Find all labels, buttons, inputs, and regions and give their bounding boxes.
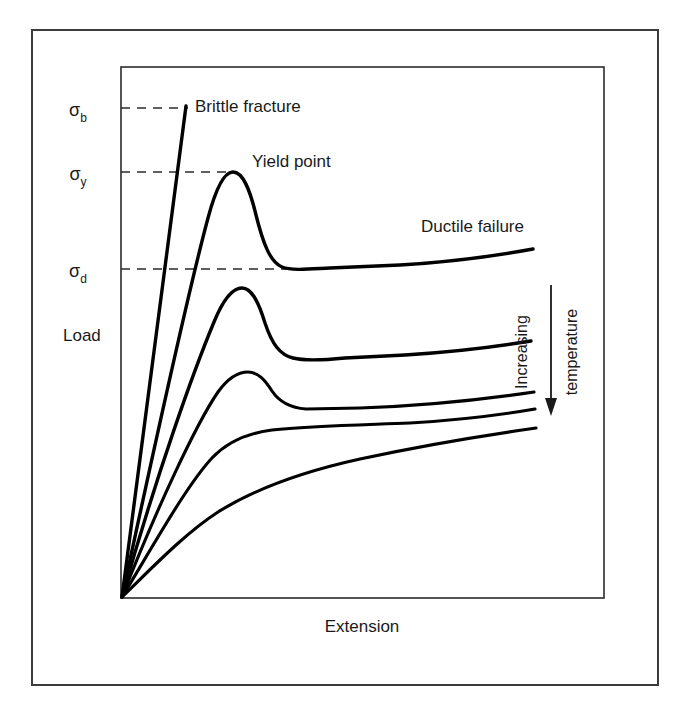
- stress-strain-figure: σb σy σd Load Extension Brittle fracture…: [0, 0, 681, 717]
- label-ductile-failure: Ductile failure: [421, 217, 524, 236]
- label-yield-point: Yield point: [252, 152, 331, 171]
- tick-sigma-d-sub: d: [80, 272, 87, 286]
- curve-3: [122, 288, 531, 597]
- tick-sigma-d-base: σ: [69, 261, 80, 281]
- tick-label-sigma-b: σb: [69, 100, 87, 125]
- tick-sigma-b-sub: b: [80, 111, 87, 125]
- label-temperature: temperature: [563, 309, 580, 395]
- tick-sigma-b-base: σ: [69, 100, 80, 120]
- figure-container: σb σy σd Load Extension Brittle fracture…: [0, 0, 681, 717]
- x-axis-label: Extension: [325, 617, 400, 636]
- y-axis-label: Load: [63, 326, 101, 345]
- label-brittle-fracture: Brittle fracture: [195, 97, 301, 116]
- plot-frame: [121, 67, 604, 598]
- tick-sigma-y-sub: y: [81, 175, 87, 189]
- tick-label-sigma-d: σd: [69, 261, 87, 286]
- tick-label-sigma-y: σy: [69, 164, 86, 189]
- temperature-arrow-head: [545, 398, 557, 416]
- label-increasing: Increasing: [513, 315, 530, 389]
- tick-sigma-y-base: σ: [69, 164, 80, 184]
